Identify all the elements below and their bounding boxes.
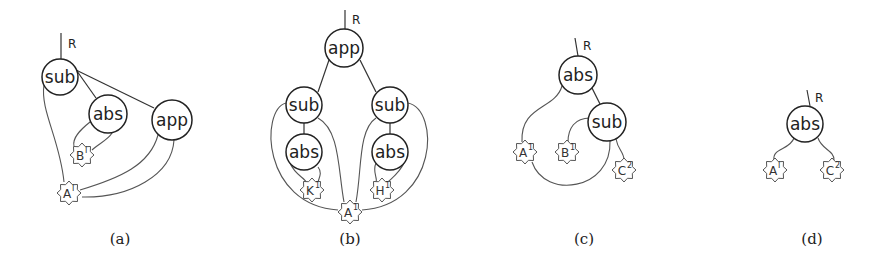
variable-star-A: AI xyxy=(57,181,81,205)
star-superscript: 1 xyxy=(353,203,358,212)
variable-star-C: C2 xyxy=(612,158,636,182)
variable-star-B: BI xyxy=(70,143,94,167)
star-superscript: I xyxy=(778,161,780,170)
node-abs: abs xyxy=(89,95,127,133)
variable-star-B: B1 xyxy=(555,140,579,164)
node-app: app xyxy=(325,29,363,67)
node-label: sub xyxy=(45,67,75,87)
star-superscript: 1 xyxy=(570,143,575,152)
node-abs-right: abs xyxy=(372,134,408,170)
panel-d: RabsAIC2 xyxy=(763,90,844,182)
node-label: abs xyxy=(93,104,123,124)
caption-d: (d) xyxy=(801,230,822,248)
node-abs: abs xyxy=(787,106,823,142)
star-label: C xyxy=(826,164,834,178)
caption-b: (b) xyxy=(339,230,360,248)
wire-edge xyxy=(318,167,320,182)
star-label: A xyxy=(344,206,353,220)
caption-a: (a) xyxy=(110,230,131,248)
root-label: R xyxy=(68,37,76,51)
wire-edge xyxy=(616,139,624,160)
star-superscript: 2 xyxy=(835,161,840,170)
root-label: R xyxy=(352,13,360,27)
star-superscript: 1 xyxy=(528,143,533,152)
star-label: K xyxy=(306,184,315,198)
node-app: app xyxy=(152,100,192,140)
star-label: A xyxy=(769,164,778,178)
wire-edge xyxy=(818,138,834,160)
star-superscript: I xyxy=(85,146,87,155)
star-superscript: 1 xyxy=(315,181,320,190)
wire-edge xyxy=(774,138,794,160)
panel-c: RabssubA1B1C2 xyxy=(513,38,636,185)
node-label: sub xyxy=(375,95,405,115)
caption-c: (c) xyxy=(574,230,594,248)
node-abs: abs xyxy=(559,56,597,94)
star-superscript: 2 xyxy=(627,161,632,170)
tree-edge xyxy=(592,88,600,104)
node-sub-right: sub xyxy=(372,87,408,123)
node-label: abs xyxy=(790,114,820,134)
tree-edge xyxy=(360,60,376,92)
node-label: abs xyxy=(375,142,405,162)
wire-edge xyxy=(74,122,90,146)
root-label: R xyxy=(815,91,823,105)
variable-star-H: H1 xyxy=(370,178,394,202)
variable-star-A: AI xyxy=(763,158,787,182)
wire-edge xyxy=(375,163,377,182)
star-label: H xyxy=(375,184,384,198)
star-label: B xyxy=(76,149,84,163)
root-line xyxy=(575,38,578,56)
wire-edge xyxy=(568,118,590,142)
node-abs-left: abs xyxy=(286,134,322,170)
wire-edge xyxy=(82,140,174,197)
variable-star-K: K1 xyxy=(300,178,324,202)
wire-edge xyxy=(522,86,562,142)
node-sub: sub xyxy=(588,103,626,141)
node-label: app xyxy=(156,110,188,130)
root-line xyxy=(807,90,810,106)
lambda-graph-figure: RsubabsappBIAIRappsubsubabsabsK1H1A1Rabs… xyxy=(0,0,884,270)
star-label: A xyxy=(519,146,528,160)
wire-edge xyxy=(43,85,64,182)
variable-star-A: A1 xyxy=(513,140,537,164)
star-label: B xyxy=(561,146,569,160)
node-sub: sub xyxy=(42,59,78,95)
wire-edge xyxy=(92,133,112,150)
star-superscript: 1 xyxy=(385,181,390,190)
node-label: sub xyxy=(289,95,319,115)
node-label: app xyxy=(328,38,360,58)
node-label: sub xyxy=(592,112,622,132)
node-label: abs xyxy=(289,142,319,162)
panel-b: RappsubsubabsabsK1H1A1 xyxy=(271,10,428,224)
tree-edge xyxy=(318,60,329,92)
root-label: R xyxy=(583,39,591,53)
star-label: C xyxy=(618,164,626,178)
variable-star-A: A1 xyxy=(338,200,362,224)
star-label: A xyxy=(63,187,72,201)
variable-star-C: C2 xyxy=(820,158,844,182)
node-sub-left: sub xyxy=(286,87,322,123)
node-label: abs xyxy=(563,65,593,85)
panel-a: RsubabsappBIAI xyxy=(42,33,192,205)
star-superscript: I xyxy=(72,184,74,193)
